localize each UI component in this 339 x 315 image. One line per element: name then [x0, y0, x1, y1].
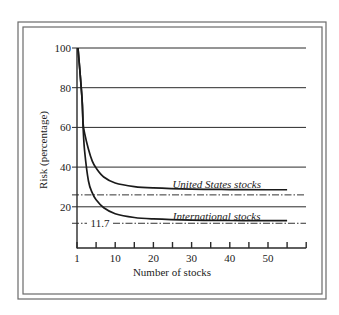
series-curve-us-stocks — [78, 48, 287, 190]
series-label-international-stocks: International stocks — [172, 210, 261, 222]
labels: 204060801001102030405011.7United States … — [55, 42, 275, 264]
risk-diversification-chart: 204060801001102030405011.7United States … — [0, 0, 339, 315]
x-tick-label-10: 10 — [110, 252, 122, 264]
x-tick-label-20: 20 — [148, 252, 160, 264]
y-tick-label-60: 60 — [60, 121, 72, 133]
reference-label-11.7: 11.7 — [91, 217, 110, 229]
x-axis-title: Number of stocks — [133, 266, 211, 278]
series-label-us-stocks: United States stocks — [172, 178, 261, 190]
y-tick-label-80: 80 — [60, 82, 72, 94]
x-tick-label-30: 30 — [186, 252, 198, 264]
y-tick-label-20: 20 — [60, 201, 72, 213]
series-curve-international-stocks — [78, 48, 287, 221]
y-tick-label-40: 40 — [60, 161, 72, 173]
y-axis-title: Risk (percentage) — [37, 111, 50, 189]
y-tick-label-100: 100 — [55, 42, 72, 54]
x-tick-label-1: 1 — [74, 252, 80, 264]
x-tick-label-50: 50 — [263, 252, 275, 264]
series-curves — [78, 48, 287, 221]
x-tick-label-40: 40 — [224, 252, 236, 264]
